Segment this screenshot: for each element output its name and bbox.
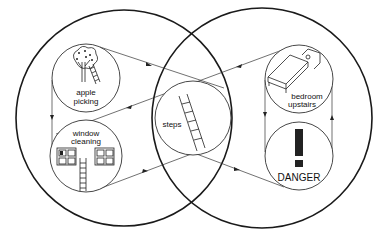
node-label: apple bbox=[76, 88, 96, 97]
node-steps: steps bbox=[155, 81, 231, 155]
venn-concept-diagram: apple picking window cleaning bbox=[0, 0, 382, 236]
arrow-head bbox=[126, 105, 132, 109]
node-label: picking bbox=[74, 97, 99, 106]
arrow-head bbox=[263, 112, 267, 117]
arrow-head bbox=[330, 115, 334, 120]
arrow-head bbox=[142, 169, 148, 173]
arrow-head bbox=[236, 64, 242, 68]
node-label: upstairs bbox=[288, 100, 316, 109]
node-label: steps bbox=[162, 120, 181, 129]
exclamation-icon bbox=[295, 129, 303, 167]
node-apple-picking: apple picking bbox=[52, 44, 120, 112]
node-label: DANGER bbox=[278, 172, 321, 183]
arrow-head bbox=[50, 115, 54, 120]
node-circle bbox=[155, 81, 231, 155]
node-danger: DANGER bbox=[265, 122, 333, 190]
node-window-cleaning: window cleaning bbox=[50, 120, 122, 192]
node-bedroom-upstairs: bedroom upstairs bbox=[265, 45, 333, 113]
node-label: cleaning bbox=[71, 137, 101, 146]
